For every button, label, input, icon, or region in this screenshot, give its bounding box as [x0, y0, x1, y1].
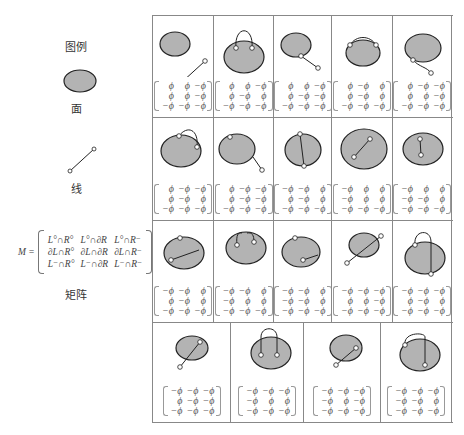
right-bracket [291, 386, 296, 416]
matrix-entry: −ϕ [295, 306, 311, 316]
matrix-table: ϕ−ϕ−ϕϕ−ϕϕ−ϕ−ϕ−ϕ [159, 184, 207, 214]
matrix-entries: L°∩R° L°∩∂R L°∩R⁻ ∂L∩R° ∂L∩∂R ∂L∩R⁻ L⁻∩R… [45, 234, 145, 270]
right-bracket [446, 81, 451, 111]
relation-diagram-icon [214, 117, 274, 180]
matrix-entry: −ϕ [354, 101, 370, 111]
relation-diagram-icon [332, 117, 393, 180]
matrix-entry: −ϕ [414, 306, 430, 316]
relation-cell: −ϕ−ϕ−ϕϕϕ−ϕ−ϕ−ϕ−ϕ [331, 220, 392, 322]
relation-matrix: −ϕ−ϕ−ϕϕϕ−ϕ−ϕ−ϕ−ϕ [333, 286, 391, 316]
grid-row: ϕϕ−ϕϕϕ−ϕ−ϕ−ϕ−ϕϕϕ−ϕϕ−ϕϕ−ϕ−ϕ−ϕϕϕ−ϕϕ−ϕ−ϕ−ϕ−… [152, 15, 452, 117]
relation-diagram-icon [214, 220, 274, 282]
matrix-entry: −ϕ [200, 406, 216, 416]
matrix-table: −ϕ−ϕ−ϕϕ−ϕ−ϕ−ϕ−ϕ−ϕ [168, 386, 216, 416]
matrix-entry: −ϕ [175, 306, 191, 316]
relation-cell: −ϕ−ϕ−ϕ−ϕϕϕ−ϕ−ϕ−ϕ [230, 322, 303, 422]
grid-line [152, 15, 453, 16]
relation-cell: ϕ−ϕϕϕ−ϕϕ−ϕ−ϕ−ϕ [331, 15, 392, 117]
relation-diagram-icon [214, 15, 274, 77]
relation-diagram-icon [153, 220, 214, 282]
relation-matrix: −ϕ−ϕϕϕ−ϕϕ−ϕ−ϕ−ϕ [154, 286, 212, 316]
relation-matrix: ϕ−ϕ−ϕϕ−ϕ−ϕ−ϕ−ϕ−ϕ [215, 184, 273, 214]
matrix-entry: −ϕ [191, 204, 207, 214]
relation-cell: ϕϕ−ϕϕ−ϕϕ−ϕ−ϕ−ϕ [213, 15, 273, 117]
matrix-entry: −ϕ [159, 306, 175, 316]
matrix-entry: −ϕ [338, 204, 354, 214]
matrix-entry: −ϕ [370, 306, 386, 316]
relation-diagram-icon [393, 117, 453, 180]
matrix-entry: −ϕ [168, 406, 184, 416]
relation-cell: ϕϕ−ϕϕϕ−ϕ−ϕ−ϕ−ϕ [152, 15, 213, 117]
matrix-table: −ϕ−ϕ−ϕ−ϕ−ϕϕ−ϕ−ϕ−ϕ [392, 386, 440, 416]
matrix-entry: L°∩∂R [77, 234, 111, 246]
matrix-entry: −ϕ [220, 101, 236, 111]
matrix-entry: −ϕ [338, 101, 354, 111]
matrix-entry: −ϕ [430, 101, 446, 111]
relation-diagram-icon [153, 117, 214, 180]
matrix-lhs: M = [18, 247, 35, 257]
legend-face-label: 面 [36, 100, 116, 116]
legend-matrix: M = L°∩R° L°∩∂R L°∩R⁻ ∂L∩R° ∂L∩∂R ∂L∩R⁻ … [18, 230, 152, 274]
matrix-entry: −ϕ [279, 204, 295, 214]
matrix-entry: ∂L∩R⁻ [111, 246, 145, 258]
relation-diagram-icon [231, 322, 304, 382]
relation-matrix: ϕϕ−ϕϕ−ϕ−ϕ−ϕ−ϕ−ϕ [274, 81, 332, 111]
matrix-entry: −ϕ [159, 101, 175, 111]
right-bracket [366, 386, 371, 416]
relation-matrix: −ϕ−ϕϕϕ−ϕϕ−ϕ−ϕ−ϕ [274, 184, 332, 214]
matrix-entry: −ϕ [191, 306, 207, 316]
matrix-entry: −ϕ [311, 204, 327, 214]
matrix-entry: −ϕ [398, 306, 414, 316]
relation-cell: ϕ−ϕ−ϕϕϕ−ϕ−ϕ−ϕ−ϕ [392, 15, 452, 117]
matrix-entry: −ϕ [275, 406, 291, 416]
relation-cell: −ϕ−ϕϕ−ϕϕϕ−ϕ−ϕ−ϕ [213, 220, 273, 322]
matrix-entry: −ϕ [279, 306, 295, 316]
matrix-entry: −ϕ [279, 101, 295, 111]
matrix-table: −ϕ−ϕ−ϕ−ϕϕ−ϕ−ϕ−ϕ−ϕ [318, 386, 366, 416]
right-bracket [207, 81, 212, 111]
relation-matrix: ϕ−ϕϕϕ−ϕϕ−ϕ−ϕ−ϕ [333, 81, 391, 111]
relation-matrix: ϕϕ−ϕϕ−ϕϕ−ϕ−ϕ−ϕ [215, 81, 273, 111]
relation-matrix: ϕ−ϕ−ϕϕ−ϕϕ−ϕ−ϕ−ϕ [154, 184, 212, 214]
relation-cell: −ϕ−ϕ−ϕϕ−ϕ−ϕ−ϕ−ϕ−ϕ [152, 322, 230, 422]
left-bracket [38, 230, 44, 274]
relation-diagram-icon [332, 220, 393, 282]
grid-row: ϕ−ϕ−ϕϕ−ϕϕ−ϕ−ϕ−ϕϕ−ϕ−ϕϕ−ϕ−ϕ−ϕ−ϕ−ϕ−ϕ−ϕϕϕ−ϕϕ… [152, 117, 452, 220]
grid-line [152, 322, 453, 323]
matrix-table: ϕϕ−ϕϕϕ−ϕ−ϕ−ϕ−ϕ [159, 81, 207, 111]
matrix-entry: −ϕ [414, 101, 430, 111]
relation-matrix: ϕ−ϕ−ϕϕϕ−ϕ−ϕ−ϕ−ϕ [393, 81, 451, 111]
right-bracket [446, 184, 451, 214]
relation-diagram-icon [332, 15, 393, 77]
matrix-entry: −ϕ [252, 101, 268, 111]
matrix-entry: −ϕ [295, 204, 311, 214]
matrix-entry: L°∩R° [45, 234, 78, 246]
matrix-entry: −ϕ [175, 101, 191, 111]
matrix-entry: −ϕ [184, 406, 200, 416]
grid-line [152, 220, 453, 221]
right-bracket [216, 386, 221, 416]
matrix-entry: −ϕ [398, 204, 414, 214]
matrix-entry: −ϕ [295, 101, 311, 111]
matrix-entry: L°∩R⁻ [111, 234, 145, 246]
relation-matrix: −ϕϕϕ−ϕ−ϕϕ−ϕ−ϕ−ϕ [393, 184, 451, 214]
matrix-entry: −ϕ [220, 204, 236, 214]
relation-matrix: −ϕ−ϕϕ−ϕϕϕ−ϕ−ϕ−ϕ [215, 286, 273, 316]
right-bracket [207, 184, 212, 214]
matrix-entry: −ϕ [252, 204, 268, 214]
matrix-entry: −ϕ [159, 204, 175, 214]
relation-matrix: ϕϕ−ϕϕϕ−ϕ−ϕ−ϕ−ϕ [154, 81, 212, 111]
relation-matrix: −ϕ−ϕ−ϕϕ−ϕϕ−ϕ−ϕ−ϕ [393, 286, 451, 316]
matrix-entry: −ϕ [370, 101, 386, 111]
matrix-entry: −ϕ [354, 306, 370, 316]
relation-cell: −ϕ−ϕϕϕ−ϕϕ−ϕ−ϕ−ϕ [273, 117, 331, 220]
matrix-table: −ϕ−ϕϕϕ−ϕϕ−ϕ−ϕ−ϕ [279, 184, 327, 214]
relation-diagram-icon [381, 322, 453, 382]
matrix-entry: −ϕ [243, 406, 259, 416]
matrix-table: ϕ−ϕ−ϕϕϕ−ϕ−ϕ−ϕ−ϕ [398, 81, 446, 111]
matrix-table: −ϕ−ϕϕ−ϕϕϕ−ϕ−ϕ−ϕ [220, 286, 268, 316]
matrix-entry: L⁻∩R° [45, 258, 78, 270]
relation-diagram-icon [153, 15, 214, 77]
legend-line-icon [64, 142, 100, 178]
relation-diagram-icon [274, 220, 332, 282]
